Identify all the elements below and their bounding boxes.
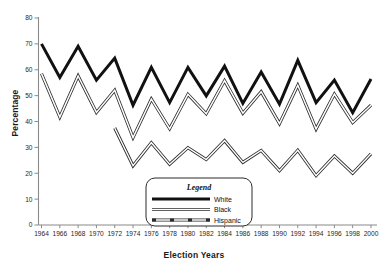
svg-text:1990: 1990 (272, 230, 287, 237)
svg-text:1968: 1968 (71, 230, 86, 237)
x-axis-title: Election Years (0, 250, 388, 260)
x-axis-ticks: 1964196619681970197219741976197819801982… (34, 225, 379, 237)
line-chart-plot: 01020304050607080 1964196619681970197219… (0, 0, 388, 270)
svg-text:1996: 1996 (327, 230, 342, 237)
svg-text:20: 20 (25, 170, 33, 177)
svg-text:70: 70 (25, 40, 33, 47)
svg-text:1974: 1974 (126, 230, 141, 237)
svg-text:1984: 1984 (217, 230, 232, 237)
y-axis-title: Percentage (10, 68, 20, 158)
svg-text:1976: 1976 (144, 230, 159, 237)
svg-text:1988: 1988 (254, 230, 269, 237)
y-axis-ticks: 01020304050607080 (25, 14, 38, 228)
svg-text:1978: 1978 (162, 230, 177, 237)
chart-legend: LegendWhiteBlackHispanic (146, 178, 252, 226)
svg-text:40: 40 (25, 118, 33, 125)
svg-text:80: 80 (25, 14, 33, 21)
svg-text:1992: 1992 (290, 230, 305, 237)
svg-text:1986: 1986 (236, 230, 251, 237)
svg-text:1998: 1998 (345, 230, 360, 237)
series-line-black (42, 74, 372, 138)
svg-text:2000: 2000 (364, 230, 379, 237)
chart-container: 01020304050607080 1964196619681970197219… (0, 0, 388, 270)
legend-label: Black (214, 206, 232, 213)
legend-title: Legend (186, 183, 212, 192)
svg-text:30: 30 (25, 144, 33, 151)
svg-text:1970: 1970 (89, 230, 104, 237)
svg-text:10: 10 (25, 196, 33, 203)
legend-label: Hispanic (214, 217, 241, 225)
svg-text:60: 60 (25, 66, 33, 73)
svg-text:1966: 1966 (52, 230, 67, 237)
legend-label: White (214, 196, 232, 203)
series-line-hispanic (115, 128, 371, 176)
svg-text:50: 50 (25, 92, 33, 99)
svg-text:1980: 1980 (181, 230, 196, 237)
svg-text:1994: 1994 (309, 230, 324, 237)
svg-text:0: 0 (29, 221, 33, 228)
svg-text:1964: 1964 (34, 230, 49, 237)
svg-text:1982: 1982 (199, 230, 214, 237)
data-series-layer (42, 44, 372, 176)
svg-text:1972: 1972 (107, 230, 122, 237)
